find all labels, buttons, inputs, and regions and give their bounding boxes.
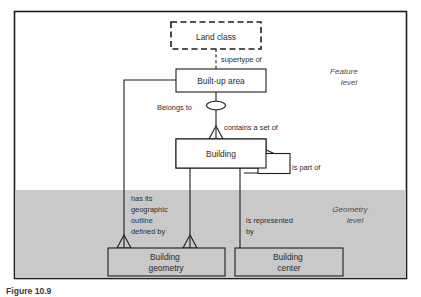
edge-supertype-of-label: supertype of — [221, 55, 263, 64]
edge-belongs-to-label: Belongs to — [157, 103, 192, 112]
edge-contains-a-set-of-label: contains a set of — [224, 123, 279, 132]
node-building-center-label: Building center — [273, 252, 305, 273]
figure-caption: Figure 10.9 — [6, 286, 52, 296]
edge-is-part-of-label: is part of — [292, 163, 321, 172]
node-building-geometry-label: Building geometry — [149, 252, 185, 273]
association-ellipse-marker — [207, 101, 226, 109]
node-builtup-area-label: Built-up area — [197, 76, 245, 86]
uml-diagram-canvas: Feature level Geometry level supertype o… — [0, 0, 421, 297]
node-land-class-label: Land class — [196, 32, 236, 42]
figure-root: Feature level Geometry level supertype o… — [0, 0, 421, 297]
node-building-overlay-label: Building — [206, 149, 236, 159]
